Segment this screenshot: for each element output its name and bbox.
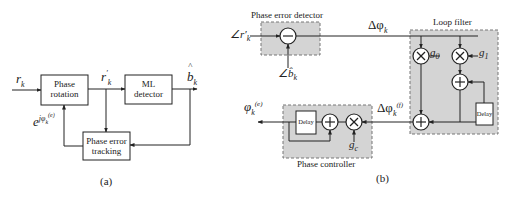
rotated-signal-label: r′k [101, 70, 111, 87]
phase-error-tracking-label: Phase errortracking [83, 136, 130, 157]
input-signal-label: rk [16, 72, 25, 89]
rotated-phase-label: ∠r′k [230, 29, 250, 43]
ml-detector-label: MLdetector [125, 79, 172, 100]
g0-label: g0 [430, 47, 440, 61]
controller-delay-label: Delay [296, 119, 316, 126]
phase-correction-label: ejφk(e) [33, 112, 55, 128]
loop-filter-delay-label: Delay [476, 111, 493, 118]
output-phase-label: φk(e) [244, 100, 263, 117]
gc-label: gc [349, 139, 358, 153]
filtered-error-label: Δφk(f) [377, 101, 403, 118]
phase-controller-title: Phase controller [297, 160, 355, 169]
phase-correction-arrow [64, 105, 83, 146]
loop-filter-title: Loop filter [433, 18, 472, 27]
g1-label: g1 [479, 47, 489, 61]
phase-rotation-label: Phaserotation [41, 79, 88, 100]
phase-error-detector-title: Phase error detector [251, 11, 323, 20]
decision-phase-label: ∠b̂k [278, 68, 297, 82]
delta-phi-label: Δφk [368, 18, 387, 35]
figure-b [250, 22, 498, 158]
caption-b: (b) [376, 173, 389, 184]
caption-a: (a) [100, 176, 112, 187]
decision-label: ^bk [187, 70, 197, 87]
